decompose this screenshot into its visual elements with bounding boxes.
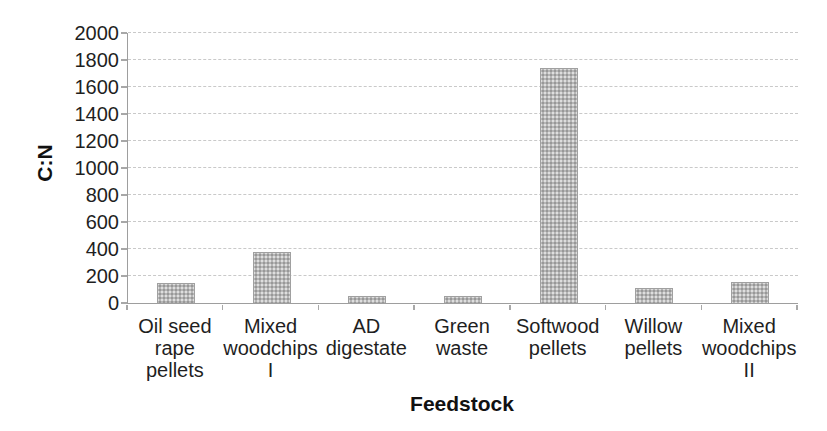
y-tick-mark-400 bbox=[121, 248, 127, 250]
y-tick-label-1400: 1400 bbox=[49, 103, 119, 125]
x-tick-mark-1 bbox=[222, 305, 224, 310]
gridline-600 bbox=[128, 221, 798, 222]
y-tick-mark-600 bbox=[121, 221, 127, 223]
y-tick-mark-2000 bbox=[121, 32, 127, 34]
plot-area bbox=[127, 33, 798, 304]
y-tick-mark-1200 bbox=[121, 140, 127, 142]
y-tick-label-1000: 1000 bbox=[49, 157, 119, 179]
gridline-400 bbox=[128, 248, 798, 249]
x-tick-mark-7 bbox=[796, 305, 798, 310]
y-tick-mark-1000 bbox=[121, 167, 127, 169]
y-tick-label-0: 0 bbox=[49, 292, 119, 314]
gridline-1000 bbox=[128, 167, 798, 168]
y-tick-mark-1400 bbox=[121, 113, 127, 115]
bar-1 bbox=[157, 283, 195, 303]
x-tick-mark-4 bbox=[509, 305, 511, 310]
gridline-1400 bbox=[128, 113, 798, 114]
y-tick-label-800: 800 bbox=[49, 184, 119, 206]
y-tick-mark-200 bbox=[121, 275, 127, 277]
x-tick-mark-2 bbox=[318, 305, 320, 310]
y-tick-label-2000: 2000 bbox=[49, 22, 119, 44]
bar-5 bbox=[540, 68, 578, 303]
x-tick-mark-3 bbox=[413, 305, 415, 310]
y-tick-mark-800 bbox=[121, 194, 127, 196]
y-tick-label-1600: 1600 bbox=[49, 76, 119, 98]
y-tick-label-1200: 1200 bbox=[49, 130, 119, 152]
gridline-2000 bbox=[128, 32, 798, 33]
bar-6 bbox=[635, 288, 673, 303]
gridline-800 bbox=[128, 194, 798, 195]
y-tick-mark-1800 bbox=[121, 59, 127, 61]
gridline-200 bbox=[128, 275, 798, 276]
y-tick-label-1800: 1800 bbox=[49, 49, 119, 71]
x-tick-mark-5 bbox=[605, 305, 607, 310]
x-tick-mark-6 bbox=[701, 305, 703, 310]
y-tick-label-400: 400 bbox=[49, 238, 119, 260]
gridline-1200 bbox=[128, 140, 798, 141]
gridline-1600 bbox=[128, 86, 798, 87]
x-tick-mark-0 bbox=[126, 305, 128, 310]
y-tick-label-200: 200 bbox=[49, 265, 119, 287]
x-axis-title: Feedstock bbox=[127, 392, 797, 416]
bar-3 bbox=[348, 296, 386, 303]
bar-7 bbox=[731, 282, 769, 303]
bar-2 bbox=[253, 252, 291, 303]
y-tick-label-600: 600 bbox=[49, 211, 119, 233]
bar-chart: C:N 020040060080010001200140016001800200… bbox=[0, 0, 827, 431]
y-tick-mark-1600 bbox=[121, 86, 127, 88]
x-category-label-7: Mixed woodchips II bbox=[684, 315, 814, 381]
gridline-1800 bbox=[128, 59, 798, 60]
bar-4 bbox=[444, 296, 482, 303]
